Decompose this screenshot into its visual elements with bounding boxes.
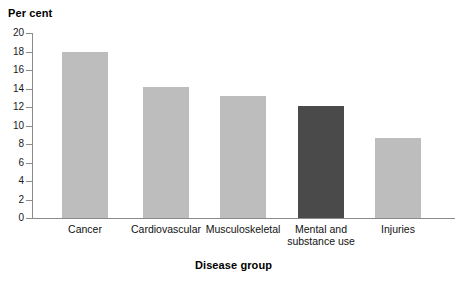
y-axis-tick-label: 8: [0, 139, 24, 149]
y-axis-tick-label: 6: [0, 158, 24, 168]
y-axis-tick: [26, 89, 32, 90]
y-axis-tick-label: 2: [0, 195, 24, 205]
bar: [375, 138, 421, 218]
bar: [143, 87, 189, 218]
y-axis-tick: [26, 163, 32, 164]
y-axis-tick: [26, 33, 32, 34]
y-axis-tick-label: 12: [0, 102, 24, 112]
y-axis-tick: [26, 181, 32, 182]
y-axis-tick: [26, 52, 32, 53]
y-axis-tick-label: 16: [0, 65, 24, 75]
y-axis-tick-label: 4: [0, 176, 24, 186]
bar: [220, 96, 266, 218]
y-axis-line: [32, 33, 33, 219]
y-axis-tick: [26, 70, 32, 71]
bar-chart: Per cent 02468101214161820 CancerCardiov…: [0, 0, 467, 284]
x-axis-line: [33, 218, 455, 219]
y-axis-tick: [26, 218, 32, 219]
y-axis-tick: [26, 200, 32, 201]
x-axis-category-label: Injuries: [338, 224, 458, 236]
bar: [62, 52, 108, 219]
y-axis-tick: [26, 144, 32, 145]
y-axis-tick-label: 0: [0, 213, 24, 223]
bar: [298, 106, 344, 218]
x-axis-title: Disease group: [0, 259, 467, 271]
y-axis-tick-label: 14: [0, 84, 24, 94]
y-axis-tick-label: 20: [0, 28, 24, 38]
y-axis-tick: [26, 107, 32, 108]
y-axis-tick-label: 18: [0, 47, 24, 57]
y-axis-title: Per cent: [8, 7, 52, 19]
y-axis-tick-label: 10: [0, 121, 24, 131]
y-axis-tick: [26, 126, 32, 127]
